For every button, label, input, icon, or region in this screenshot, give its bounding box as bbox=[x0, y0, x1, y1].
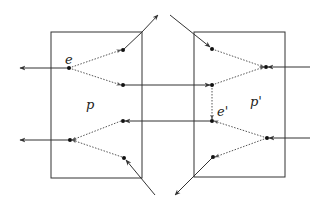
box-label-p: p bbox=[86, 98, 94, 111]
node-e-prime bbox=[210, 119, 214, 123]
node-r2 bbox=[264, 65, 268, 69]
dotted-edge bbox=[212, 49, 264, 67]
nodes-layer bbox=[67, 47, 269, 160]
node-l1 bbox=[121, 48, 125, 52]
solid-edges-layer bbox=[20, 15, 310, 195]
dotted-edge bbox=[72, 121, 121, 140]
flow-diagram bbox=[0, 0, 331, 207]
node-r6 bbox=[211, 155, 215, 159]
node-label-e-prime: e' bbox=[217, 105, 228, 118]
node-r1 bbox=[210, 47, 214, 51]
dotted-edge bbox=[72, 140, 122, 157]
node-l2 bbox=[121, 83, 125, 87]
node-l3 bbox=[121, 119, 125, 123]
dotted-edges-layer bbox=[69, 49, 267, 157]
node-r3 bbox=[210, 83, 214, 87]
node-label-e: e bbox=[65, 53, 73, 66]
box-label-p-prime: p' bbox=[250, 95, 262, 108]
node-l5 bbox=[122, 156, 126, 160]
node-r5 bbox=[265, 136, 269, 140]
dotted-edge bbox=[69, 50, 121, 68]
dotted-edge bbox=[214, 121, 267, 138]
node-l4 bbox=[68, 138, 72, 142]
dotted-edge bbox=[215, 138, 267, 157]
box-p_prime bbox=[194, 32, 285, 177]
dotted-edge bbox=[69, 68, 121, 85]
solid-edge bbox=[170, 15, 210, 47]
dotted-edge bbox=[212, 67, 264, 85]
